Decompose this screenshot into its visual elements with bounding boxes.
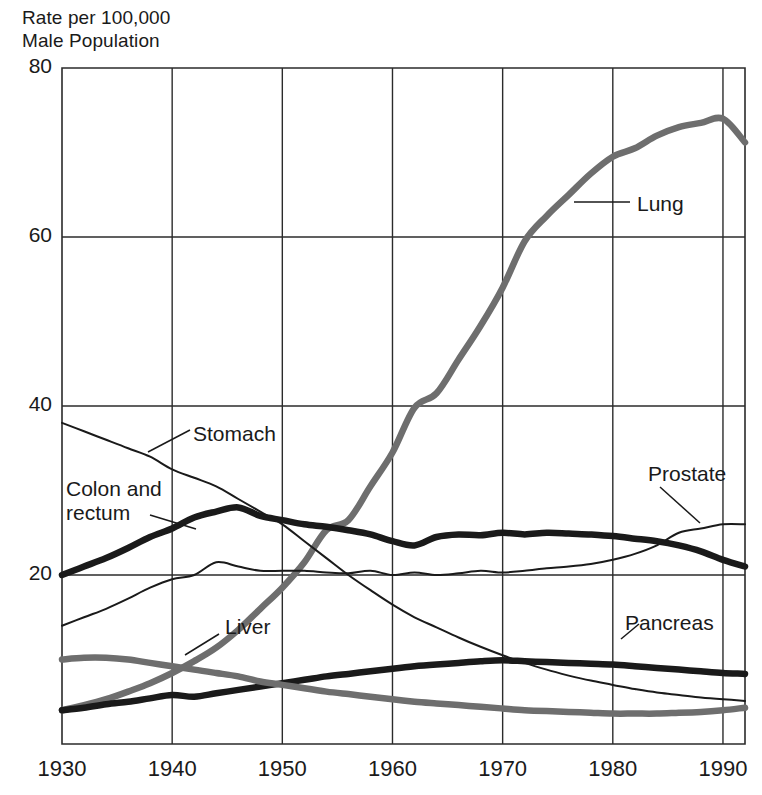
y-tick-label: 40 — [8, 392, 52, 416]
x-tick-label: 1990 — [681, 756, 762, 782]
plot-area — [0, 0, 762, 795]
series-line-colon-and-rectum — [62, 507, 745, 575]
series-line-stomach — [62, 423, 745, 701]
y-tick-label: 60 — [8, 223, 52, 247]
leader-line — [148, 430, 190, 452]
stomach-label: Stomach — [193, 422, 276, 446]
x-tick-label: 1930 — [20, 756, 104, 782]
lung-label: Lung — [637, 192, 684, 216]
x-tick-label: 1980 — [571, 756, 655, 782]
liver-label: Liver — [225, 615, 271, 639]
y-tick-label: 20 — [8, 561, 52, 585]
gridlines — [62, 68, 745, 744]
x-tick-label: 1950 — [240, 756, 324, 782]
y-tick-label: 80 — [8, 54, 52, 78]
leader-line — [660, 487, 700, 523]
x-tick-label: 1940 — [130, 756, 214, 782]
chart-figure: Rate per 100,000 Male Population 8060402… — [0, 0, 762, 795]
prostate-label: Prostate — [648, 462, 726, 486]
colon-label: Colon and rectum — [66, 477, 162, 525]
pancreas-label: Pancreas — [625, 611, 714, 635]
x-tick-label: 1960 — [350, 756, 434, 782]
x-tick-label: 1970 — [461, 756, 545, 782]
